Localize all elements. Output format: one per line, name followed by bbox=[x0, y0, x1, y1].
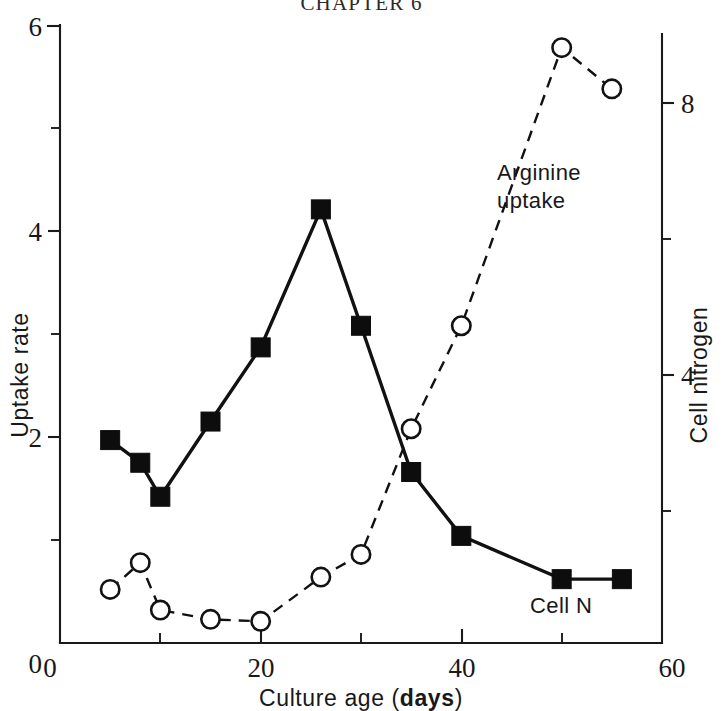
y-left-tick-6: 6 bbox=[29, 12, 43, 42]
data-point bbox=[352, 316, 371, 335]
x-axis-title-plain: Culture age ( bbox=[259, 685, 400, 711]
annotation-arginine-line1: Arginine bbox=[497, 160, 581, 185]
chart-figure: 6 4 2 0 Uptake rate 8 4 Cell nitrogen bbox=[0, 0, 723, 711]
y-axis-left-title: Uptake rate bbox=[7, 312, 33, 438]
x-axis-title: Culture age (days) bbox=[259, 685, 463, 711]
x-axis-title-bold: days bbox=[400, 685, 455, 711]
x-tick-40: 40 bbox=[449, 653, 476, 683]
y-left-tick-0: 0 bbox=[29, 649, 43, 679]
data-point bbox=[251, 612, 269, 630]
data-point bbox=[151, 487, 170, 506]
x-axis-title-tail: ) bbox=[455, 685, 463, 711]
axis-right-ticks bbox=[662, 103, 674, 511]
annotation-cell-n: Cell N bbox=[530, 593, 592, 618]
data-point bbox=[452, 526, 471, 545]
x-tick-60: 60 bbox=[659, 653, 686, 683]
data-point bbox=[612, 570, 631, 589]
data-point bbox=[101, 580, 119, 598]
axis-bottom-ticks bbox=[160, 629, 562, 643]
data-point bbox=[201, 412, 220, 431]
data-point bbox=[552, 570, 571, 589]
data-point bbox=[452, 317, 470, 335]
data-point bbox=[312, 568, 330, 586]
data-point bbox=[352, 545, 370, 563]
axis-bottom-tick-labels: 0 20 40 60 bbox=[43, 653, 685, 683]
chart-plot-area: 6 4 2 0 Uptake rate 8 4 Cell nitrogen bbox=[0, 0, 723, 711]
series-cell-n-line bbox=[110, 209, 622, 579]
data-point bbox=[251, 338, 270, 357]
figure-page: CHAPTER 6 bbox=[0, 0, 723, 711]
data-point bbox=[151, 601, 169, 619]
data-point bbox=[402, 463, 421, 482]
y-right-tick-8: 8 bbox=[681, 89, 695, 119]
data-point bbox=[552, 38, 570, 56]
data-point bbox=[201, 610, 219, 628]
axis-left-ticks bbox=[48, 128, 60, 540]
data-point bbox=[101, 431, 120, 450]
series-cell-n-markers bbox=[101, 200, 632, 589]
chart-annotations: Arginine uptake Cell N bbox=[497, 160, 592, 618]
annotation-arginine-line2: uptake bbox=[497, 188, 565, 213]
data-point bbox=[402, 420, 420, 438]
data-point bbox=[131, 553, 149, 571]
data-point bbox=[603, 80, 621, 98]
x-tick-0: 0 bbox=[43, 653, 57, 683]
y-left-tick-4: 4 bbox=[29, 217, 43, 247]
data-point bbox=[311, 200, 330, 219]
x-tick-20: 20 bbox=[248, 653, 275, 683]
data-point bbox=[131, 453, 150, 472]
y-axis-right-title: Cell nitrogen bbox=[686, 307, 712, 444]
